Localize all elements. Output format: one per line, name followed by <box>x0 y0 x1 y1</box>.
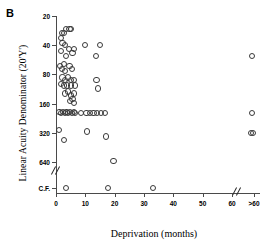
data-point <box>249 53 255 59</box>
y-tick-label-6: C.F. <box>38 185 50 192</box>
y-tick-label-1: 40 <box>43 42 50 49</box>
data-point <box>110 158 116 164</box>
data-point <box>150 185 156 191</box>
data-point <box>93 53 99 59</box>
y-tick-label-3: 160 <box>39 100 50 107</box>
data-point <box>72 82 78 88</box>
y-tick-6 <box>52 188 56 189</box>
data-point <box>97 42 103 48</box>
y-tick-5 <box>52 162 56 163</box>
x-axis-break-icon <box>232 187 244 199</box>
y-axis-title: Linear Acuity Denominator (20'Y') <box>18 28 28 198</box>
data-point <box>69 66 75 72</box>
data-point <box>250 130 256 136</box>
data-point <box>68 26 74 32</box>
y-tick-label-0: 20 <box>43 13 50 20</box>
y-axis-break-icon <box>52 166 62 178</box>
figure-panel-b: B Linear Acuity Denominator (20'Y') 2040… <box>0 0 268 245</box>
data-point <box>84 128 90 134</box>
x-axis-title: Deprivation (months) <box>40 228 268 239</box>
y-tick-4 <box>52 133 56 134</box>
data-point <box>93 77 99 83</box>
x-tick-label-1: 10 <box>82 200 89 207</box>
data-point <box>61 137 67 143</box>
data-point <box>105 185 111 191</box>
data-point <box>102 110 108 116</box>
data-point <box>82 42 88 48</box>
data-point <box>95 85 101 91</box>
data-point <box>56 127 62 133</box>
x-tick-label-4: 40 <box>170 200 177 207</box>
x-tick-label-5: 50 <box>199 200 206 207</box>
x-tick-label-7: >60 <box>248 200 259 207</box>
data-point <box>249 110 255 116</box>
y-tick-label-5: 640 <box>39 159 50 166</box>
data-point <box>69 50 75 56</box>
x-tick-label-6: 60 <box>228 200 235 207</box>
panel-label: B <box>6 8 14 19</box>
data-point <box>71 100 77 106</box>
data-point <box>103 133 109 139</box>
y-tick-3 <box>52 104 56 105</box>
x-tick-6 <box>232 193 233 197</box>
x-tick-2 <box>115 193 116 197</box>
y-tick-2 <box>52 74 56 75</box>
y-tick-label-4: 320 <box>39 129 50 136</box>
y-tick-label-2: 80 <box>43 71 50 78</box>
plot-area: 204080160320640C.F. 0102030405060>60 <box>56 16 260 194</box>
x-tick-3 <box>144 193 145 197</box>
x-tick-label-2: 20 <box>111 200 118 207</box>
x-tick-1 <box>85 193 86 197</box>
x-tick-4 <box>173 193 174 197</box>
data-point <box>63 53 69 59</box>
y-tick-0 <box>52 16 56 17</box>
x-axis-line <box>56 193 260 194</box>
x-tick-7 <box>254 193 255 197</box>
data-point <box>63 185 69 191</box>
x-tick-label-0: 0 <box>54 200 58 207</box>
y-tick-1 <box>52 45 56 46</box>
x-tick-0 <box>56 193 57 197</box>
x-tick-label-3: 30 <box>140 200 147 207</box>
x-tick-5 <box>203 193 204 197</box>
